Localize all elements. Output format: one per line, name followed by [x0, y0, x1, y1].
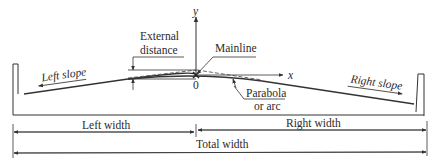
parabola-label-line1: Parabola — [246, 87, 286, 99]
y-axis-label: y — [192, 5, 199, 18]
right-width-label: Right width — [286, 117, 341, 130]
right-slope-annotation: Right slope — [348, 72, 404, 94]
external-distance-label-line2: distance — [140, 44, 178, 56]
width-dimensions: Left width Right width Total width — [13, 117, 427, 158]
origin-label: 0 — [193, 79, 199, 91]
left-wall — [13, 64, 18, 115]
right-slope-label: Right slope — [349, 72, 403, 92]
total-width-arrow-right — [14, 152, 426, 153]
total-width-label: Total width — [196, 138, 249, 150]
mainline-annotation: Mainline — [197, 42, 257, 74]
left-width-label: Left width — [82, 119, 130, 131]
left-slope-label: Left slope — [40, 65, 87, 84]
external-distance-label-line1: External — [140, 30, 179, 42]
mainline-label: Mainline — [215, 42, 257, 54]
external-distance-annotation: External distance — [128, 30, 196, 90]
road-cross-section-diagram: y x 0 External distance Mainline Parabol… — [0, 0, 438, 166]
parabola-label-line2: or arc — [254, 100, 281, 112]
left-slope-annotation: Left slope — [37, 65, 88, 86]
x-axis-label: x — [287, 69, 294, 81]
right-wall — [416, 74, 424, 116]
